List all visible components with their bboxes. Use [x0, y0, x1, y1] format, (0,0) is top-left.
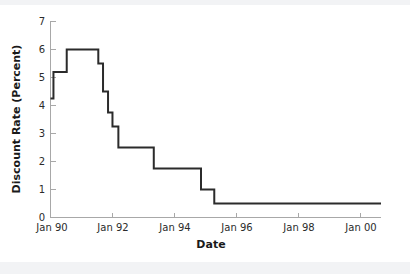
y-axis: 7 6 5 4 3 2 1 0 Discount Rate (Percent)	[10, 16, 56, 223]
discount-rate-step-chart: 7 6 5 4 3 2 1 0 Discount Rate (Percent)	[0, 0, 410, 274]
y-tick-label-3: 3	[39, 128, 45, 139]
y-tick-label-1: 1	[39, 184, 45, 195]
x-tick-label-jan-00: Jan 00	[344, 222, 376, 233]
y-tick-marks	[51, 22, 56, 218]
x-tick-labels: Jan 90 Jan 92 Jan 94 Jan 96 Jan 98 Jan 0…	[35, 222, 376, 233]
y-tick-labels: 7 6 5 4 3 2 1 0	[39, 16, 45, 223]
x-tick-marks	[51, 213, 361, 218]
data-series-group	[51, 50, 382, 204]
x-tick-label-jan-96: Jan 96	[220, 222, 252, 233]
y-tick-label-2: 2	[39, 156, 45, 167]
x-tick-label-jan-98: Jan 98	[282, 222, 314, 233]
x-tick-label-jan-92: Jan 92	[96, 222, 128, 233]
chart-screenshot: 7 6 5 4 3 2 1 0 Discount Rate (Percent)	[0, 0, 410, 274]
y-tick-label-5: 5	[39, 72, 45, 83]
y-axis-title: Discount Rate (Percent)	[10, 45, 23, 194]
x-tick-label-jan-94: Jan 94	[158, 222, 190, 233]
y-tick-label-7: 7	[39, 16, 45, 27]
x-axis: Jan 90 Jan 92 Jan 94 Jan 96 Jan 98 Jan 0…	[35, 213, 381, 252]
y-tick-label-6: 6	[39, 44, 45, 55]
y-tick-label-4: 4	[39, 100, 45, 111]
discount-rate-line	[51, 50, 382, 204]
x-axis-title: Date	[196, 238, 225, 251]
x-tick-label-jan-90: Jan 90	[35, 222, 67, 233]
